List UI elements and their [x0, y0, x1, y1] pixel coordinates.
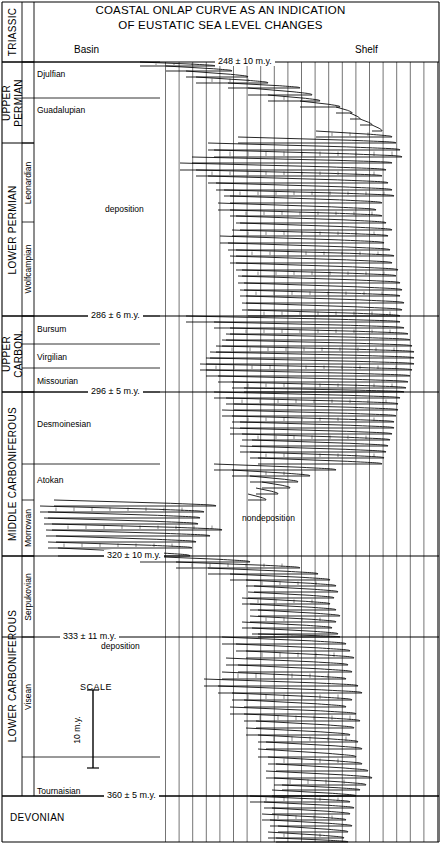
- onlap-cycle: [238, 665, 352, 672]
- annotation-nondeposition: nondeposition: [242, 513, 295, 523]
- period-label: PERMIAN: [13, 79, 24, 127]
- annotation-deposition-lower: deposition: [101, 641, 140, 651]
- onlap-cycle: [372, 125, 382, 131]
- onlap-cycle: [216, 183, 392, 190]
- onlap-cycle: [250, 616, 336, 622]
- onlap-cycle: [224, 190, 394, 196]
- onlap-cycle: [218, 686, 362, 693]
- onlap-cycle: [214, 392, 400, 398]
- onlap-cycle: [48, 542, 192, 548]
- onlap-cycle: [258, 458, 382, 464]
- onlap-cycle: [272, 790, 356, 796]
- stage-label: Bursum: [37, 324, 66, 334]
- onlap-cycle: [44, 518, 198, 524]
- onlap-cycle: [196, 77, 268, 83]
- onlap-cycle: [242, 270, 396, 276]
- stage-label: Wolfcampian: [23, 245, 33, 294]
- onlap-cycle: [226, 398, 398, 404]
- annotation-deposition-upper: deposition: [105, 204, 144, 214]
- onlap-cycle: [236, 644, 350, 651]
- period-label: UPPER: [1, 336, 12, 372]
- onlap-cycle: [220, 236, 384, 243]
- stage-label: Desmoinesian: [37, 419, 91, 429]
- period-label: TRIASSIC: [7, 8, 18, 57]
- age-marker-label: 360 ± 5 m.y.: [104, 790, 159, 800]
- onlap-cycle: [244, 283, 402, 290]
- onlap-cycle: [258, 735, 358, 742]
- onlap-cycle: [230, 328, 408, 334]
- stage-label: Guadalupian: [37, 105, 85, 115]
- onlap-cycle: [56, 536, 196, 542]
- onlap-cycle: [300, 101, 340, 107]
- onlap-cycle: [228, 83, 300, 88]
- onlap-cycle: [226, 658, 348, 665]
- onlap-cycle: [226, 334, 410, 340]
- scale-title: SCALE: [80, 682, 112, 692]
- age-marker-label: 333 ± 11 m.y.: [60, 631, 119, 641]
- onlap-cycle: [316, 131, 392, 137]
- stage-label: Visean: [23, 684, 33, 710]
- onlap-cycle: [262, 482, 290, 488]
- onlap-cycle: [54, 500, 216, 506]
- onlap-cycle: [250, 452, 384, 458]
- chart-canvas: COASTAL ONLAP CURVE AS AN INDICATION OF …: [0, 0, 441, 856]
- stage-label: Leonardian: [23, 161, 33, 204]
- onlap-cycle: [230, 196, 382, 203]
- onlap-cycle: [230, 428, 392, 434]
- onlap-cycle: [230, 210, 382, 216]
- onlap-cycle: [186, 71, 248, 77]
- period-label-devonian: DEVONIAN: [10, 812, 65, 823]
- onlap-cycle: [252, 440, 388, 446]
- onlap-cycle: [214, 322, 404, 328]
- onlap-cycle: [336, 107, 352, 113]
- onlap-cycle: [244, 714, 360, 721]
- onlap-cycle: [242, 434, 390, 440]
- onlap-cycle: [240, 223, 392, 230]
- onlap-cycle: [256, 488, 278, 494]
- onlap-cycle: [244, 388, 404, 392]
- period-label: LOWER PERMIAN: [7, 185, 18, 274]
- age-marker-label: 320 ± 10 m.y.: [104, 550, 164, 560]
- onlap-cycle: [250, 604, 336, 610]
- onlap-curve: [40, 62, 414, 842]
- onlap-cycle: [276, 838, 348, 842]
- onlap-cycle: [248, 310, 400, 316]
- onlap-cycle: [52, 524, 222, 530]
- onlap-cycle: [252, 628, 338, 634]
- onlap-cycle: [268, 95, 320, 101]
- onlap-cycle: [46, 530, 210, 536]
- stage-label: Tournaisian: [37, 786, 80, 796]
- onlap-cycle: [270, 820, 352, 826]
- onlap-cycle: [208, 143, 400, 150]
- onlap-cycle: [232, 230, 388, 236]
- onlap-cycle: [360, 119, 372, 125]
- stage-label: Missourian: [37, 376, 78, 386]
- onlap-cycle: [248, 494, 266, 500]
- onlap-cycle: [228, 243, 390, 250]
- age-marker-label: 296 ± 5 m.y.: [88, 386, 143, 396]
- stage-label: Atokan: [37, 475, 63, 485]
- onlap-cycle: [258, 749, 356, 757]
- onlap-cycle: [222, 637, 346, 644]
- stage-label: Morrowan: [23, 509, 33, 547]
- onlap-cycle: [240, 422, 394, 428]
- onlap-cycle: [222, 410, 396, 416]
- onlap-cycle: [236, 216, 386, 223]
- onlap-cycle: [264, 802, 354, 808]
- onlap-cycle: [204, 679, 358, 686]
- stage-label: Serpukovian: [23, 573, 33, 620]
- onlap-cycle: [244, 700, 346, 707]
- onlap-cycle: [242, 622, 332, 628]
- onlap-cycle: [218, 203, 376, 210]
- onlap-cycle: [236, 263, 398, 270]
- onlap-cycle: [272, 808, 350, 814]
- onlap-cycle: [218, 376, 408, 382]
- onlap-cycle: [262, 814, 346, 820]
- onlap-cycle: [248, 88, 312, 95]
- onlap-cycle: [210, 352, 414, 358]
- onlap-cycle: [222, 672, 346, 679]
- onlap-cycle: [258, 610, 340, 616]
- stage-label: Djulfian: [37, 69, 65, 79]
- onlap-cycle: [176, 562, 300, 568]
- onlap-cycle: [250, 796, 350, 802]
